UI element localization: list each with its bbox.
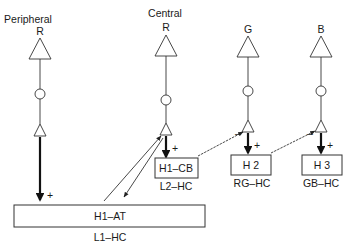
- cone-pedicle-icon: [315, 120, 327, 132]
- cone-outer-segment-icon: [155, 35, 177, 56]
- horizontal-cell-circuit-diagram: Peripheral Central R + R + G + – B: [0, 0, 353, 248]
- cone-nucleus-icon: [316, 86, 326, 96]
- g-cone: G + –: [235, 23, 260, 153]
- h1-cb-label: H1–CB: [159, 162, 193, 174]
- cell-h3: H 3 GB–HC: [302, 155, 342, 189]
- cone-label-central-r: R: [162, 21, 170, 33]
- h3-label: H 3: [314, 159, 331, 171]
- gb-hc-label: GB–HC: [303, 177, 340, 189]
- cone-outer-segment-icon: [310, 36, 332, 57]
- cone-nucleus-icon: [243, 86, 253, 96]
- h1-at-label: H1–AT: [94, 210, 126, 222]
- minus-sign: –: [235, 127, 241, 139]
- h2-label: H 2: [243, 159, 260, 171]
- l2-hc-label: L2–HC: [160, 180, 193, 192]
- plus-sign: +: [254, 139, 260, 151]
- plus-sign: +: [47, 189, 53, 201]
- rg-hc-label: RG–HC: [234, 177, 271, 189]
- cell-h2: H 2 RG–HC: [231, 155, 271, 189]
- feedback-arrow-h1at-to-central-r: [104, 136, 161, 201]
- central-r-cone: R +: [155, 21, 178, 157]
- cone-nucleus-icon: [161, 95, 171, 105]
- cone-label-g: G: [244, 23, 252, 35]
- l1-hc-label: L1–HC: [94, 231, 127, 243]
- cone-pedicle-icon: [34, 124, 46, 136]
- cone-label-b: B: [317, 23, 324, 35]
- peripheral-r-cone: R +: [29, 25, 53, 201]
- cell-h1-cb: H1–CB L2–HC: [155, 158, 198, 192]
- central-label: Central: [148, 7, 182, 19]
- peripheral-label: Peripheral: [4, 13, 52, 25]
- cone-outer-segment-icon: [237, 36, 259, 57]
- plus-sign: +: [172, 142, 178, 154]
- cone-pedicle-icon: [242, 120, 254, 132]
- cone-outer-segment-icon: [29, 38, 51, 59]
- cone-label-peripheral-r: R: [36, 25, 44, 37]
- plus-sign: +: [327, 139, 333, 151]
- cone-pedicle-icon: [160, 123, 172, 135]
- feedback-arrow-h1cb-to-g: [198, 132, 243, 156]
- cone-nucleus-icon: [35, 89, 45, 99]
- cell-h1-at: H1–AT L1–HC: [14, 205, 205, 243]
